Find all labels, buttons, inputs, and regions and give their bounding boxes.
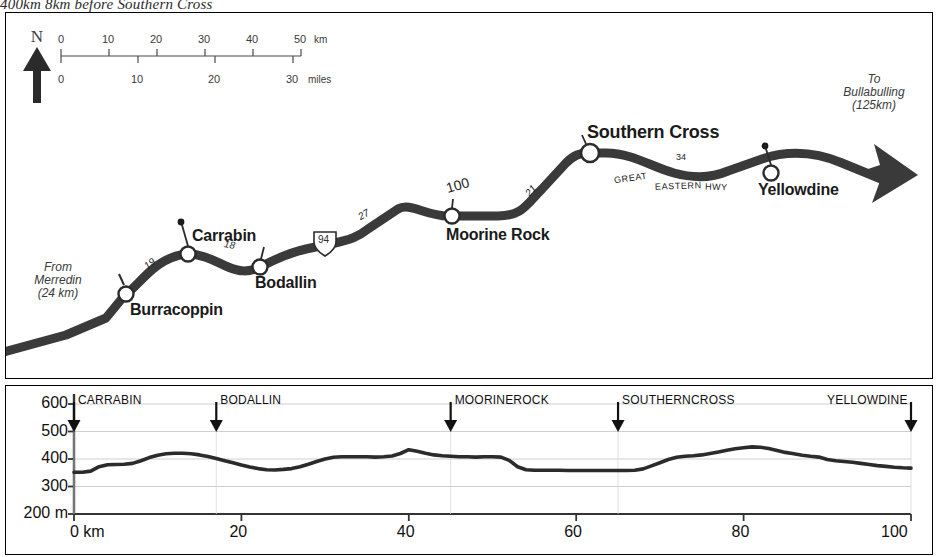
leader-moorine-rock [452,199,453,208]
profile-x-tick-label: 100 [881,523,908,541]
scale-km-tick-30: 30 [198,33,210,45]
highway-word-hwy: HWY [705,182,728,193]
scale-km-tick-50: 50 [294,33,306,45]
scale-mi-tick-20: 20 [208,73,220,85]
profile-x-tick-label: 40 [397,523,415,541]
destination-note-line-3: (125km) [826,99,922,112]
town-label-moorine-rock[interactable]: Moorine Rock [446,226,549,244]
elevation-profile-panel: CARRABINBODALLINMOORINEROCKSOUTHERNCROSS… [5,385,933,555]
destination-note: To Bullabulling (125km) [826,73,922,112]
town-dot-carrabin[interactable] [181,247,196,262]
town-arrow-head [905,420,918,432]
profile-gridlines [74,404,911,487]
road-arrow-head [856,144,918,203]
leader-burracoppin [119,274,124,285]
north-arrow: N [18,29,56,91]
route-shield-number-94: 94 [318,234,329,245]
scale-mi-tick-0: 0 [58,73,64,85]
town-dot-southern-cross[interactable] [581,144,599,162]
locality-dot-yellowdine [762,143,769,150]
highway-word-eastern: EASTERN [655,180,702,192]
scale-mi-unit: miles [308,74,331,85]
elevation-line [74,447,911,472]
leader-bodallin [261,247,264,259]
town-dot-yellowdine[interactable] [764,166,779,181]
profile-x-tick-label: 80 [732,523,750,541]
town-label-southern-cross[interactable]: Southern Cross [587,122,719,143]
profile-y-tick-label: 200 m [6,504,68,522]
town-dot-burracoppin[interactable] [119,287,134,302]
scale-km-unit: km [314,34,327,45]
town-dot-moorine-rock[interactable] [445,209,460,224]
map-panel: N 0 10 20 30 40 50 km 0 10 20 30 miles F… [5,12,933,379]
profile-y-tick-label: 300 [6,477,68,495]
leader-southern-cross [582,135,586,144]
profile-y-tick-label: 600 [6,394,68,412]
profile-y-tick-label: 500 [6,422,68,440]
origin-note: From Merredin (24 km) [18,261,98,300]
profile-town-label-bodallin[interactable]: BODALLIN [220,393,281,407]
town-arrow-head [210,420,223,432]
town-dot-bodallin[interactable] [253,260,268,275]
town-label-yellowdine[interactable]: Yellowdine [758,181,839,199]
scale-km-tick-20: 20 [150,33,162,45]
elevation-profile-chart [6,386,930,552]
origin-note-line-3: (24 km) [18,287,98,300]
profile-x-tick-label: 0 km [70,523,105,541]
profile-x-tick-label: 60 [564,523,582,541]
profile-town-label-southerncross[interactable]: SOUTHERNCROSS [622,393,735,407]
profile-x-tick-label: 20 [229,523,247,541]
profile-town-label-carrabin[interactable]: CARRABIN [78,393,142,407]
north-label: N [18,27,56,47]
town-label-bodallin[interactable]: Bodallin [255,274,317,292]
scale-mi-tick-10: 10 [131,73,143,85]
town-arrow-head [68,420,81,432]
town-label-burracoppin[interactable]: Burracoppin [130,301,223,319]
locality-dot-carrabin [178,219,185,226]
segment-distance-18: 18 [223,238,236,251]
scale-km-tick-10: 10 [102,33,114,45]
north-arrow-icon [18,45,56,105]
page-caption: 400km 8km before Southern Cross [0,0,938,12]
profile-town-label-yellowdine[interactable]: YELLOWDINE [827,393,908,407]
leader-carrabin [182,225,188,246]
scale-bar: 0 10 20 30 40 50 km 0 10 20 30 miles [58,33,358,91]
segment-distance-34: 34 [676,152,686,162]
scale-mi-tick-30: 30 [286,73,298,85]
profile-town-label-moorinerock[interactable]: MOORINEROCK [455,393,549,407]
map-page: 400km 8km before Southern Cross [0,0,938,557]
town-arrow-head [612,420,625,432]
profile-y-tick-label: 400 [6,449,68,467]
town-arrow-head [444,420,457,432]
scale-km-tick-0: 0 [58,33,64,45]
scale-km-tick-40: 40 [246,33,258,45]
